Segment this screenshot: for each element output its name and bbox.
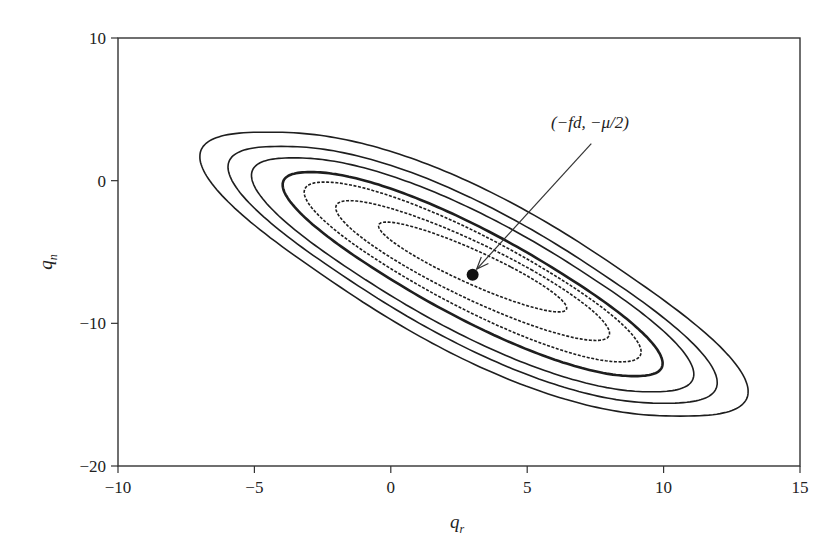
- svg-text:qr: qr: [450, 511, 465, 536]
- y-tick-label: 10: [89, 29, 106, 48]
- annotation-arrow: [477, 144, 592, 270]
- x-tick-label: 15: [792, 478, 809, 497]
- contour-chart: −10−5051015 −20−10010 qr qn (−fd, −μ/2): [0, 0, 836, 559]
- x-tick-label: −10: [105, 478, 132, 497]
- x-tick-label: 10: [655, 478, 672, 497]
- y-tick-label: 0: [98, 172, 107, 191]
- y-axis-ticks: −20−10010: [79, 29, 118, 476]
- svg-text:qn: qn: [35, 254, 60, 270]
- annotation-text: (−fd, −μ/2): [551, 113, 629, 132]
- x-axis-label-sub: r: [460, 522, 465, 536]
- x-tick-label: 0: [387, 478, 396, 497]
- y-axis-label-sub: n: [46, 254, 60, 260]
- center-point-marker: [467, 269, 479, 281]
- x-tick-label: −5: [245, 478, 263, 497]
- y-axis-label-main: q: [35, 260, 56, 270]
- x-axis-ticks: −10−5051015: [105, 466, 809, 497]
- x-axis-label-main: q: [450, 511, 460, 532]
- center-annotation: (−fd, −μ/2): [477, 113, 629, 269]
- y-tick-label: −10: [79, 314, 106, 333]
- y-axis-label: qn: [35, 254, 60, 270]
- x-axis-label: qr: [450, 511, 465, 536]
- plot-frame: [118, 38, 800, 466]
- y-tick-label: −20: [79, 457, 106, 476]
- x-tick-label: 5: [523, 478, 532, 497]
